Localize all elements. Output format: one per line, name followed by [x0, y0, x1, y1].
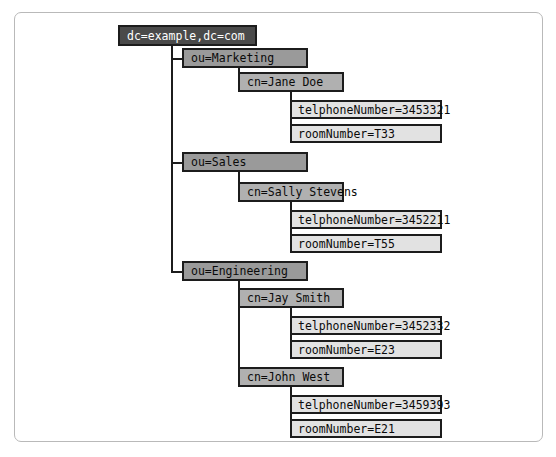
ldap-attribute-roomnumber[interactable]: roomNumber=E23: [290, 340, 442, 359]
ldap-attribute-telphonenumber[interactable]: telphoneNumber=3452332: [290, 316, 442, 335]
ldap-node-cn-jay-smith[interactable]: cn=Jay Smith: [238, 288, 344, 308]
tree-connector-horizontal: [171, 58, 182, 60]
tree-connector-vertical: [171, 46, 173, 271]
ldap-node-cn-jane-doe[interactable]: cn=Jane Doe: [238, 72, 344, 92]
ldap-node-cn-sally-stevens[interactable]: cn=Sally Stevens: [238, 182, 344, 202]
diagram-canvas: dc=example,dc=comou=Marketingcn=Jane Doe…: [0, 0, 556, 457]
ldap-node-ou-marketing[interactable]: ou=Marketing: [182, 48, 308, 68]
ldap-node-cn-john-west[interactable]: cn=John West: [238, 367, 344, 387]
tree-connector-horizontal: [171, 162, 182, 164]
ldap-attribute-roomnumber[interactable]: roomNumber=T55: [290, 234, 442, 253]
ldap-attribute-telphonenumber[interactable]: telphoneNumber=3452211: [290, 210, 442, 229]
ldap-attribute-telphonenumber[interactable]: telphoneNumber=3459393: [290, 395, 442, 414]
ldap-attribute-roomnumber[interactable]: roomNumber=E21: [290, 419, 442, 438]
tree-connector-horizontal: [171, 271, 182, 273]
ldap-node-root[interactable]: dc=example,dc=com: [118, 25, 257, 46]
ldap-node-ou-engineering[interactable]: ou=Engineering: [182, 261, 308, 281]
ldap-node-ou-sales[interactable]: ou=Sales: [182, 152, 308, 172]
ldap-attribute-roomnumber[interactable]: roomNumber=T33: [290, 124, 442, 143]
ldap-attribute-telphonenumber[interactable]: telphoneNumber=3453321: [290, 100, 442, 119]
